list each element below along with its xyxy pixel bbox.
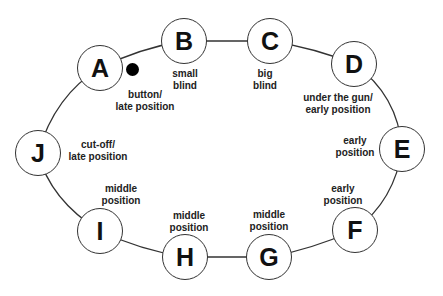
seat-i: I <box>77 208 123 254</box>
label-seat-g: middleposition <box>244 209 294 233</box>
dealer-button-icon <box>126 63 139 76</box>
label-seat-d: under the gun/early position <box>293 92 383 116</box>
label-seat-c: bigblind <box>240 68 290 92</box>
seat-f: F <box>332 207 378 253</box>
label-seat-b: smallblind <box>160 68 210 92</box>
seat-c: C <box>247 18 293 64</box>
seat-d: D <box>331 41 377 87</box>
poker-table-diagram: A B C D E F G H I J button/late position… <box>0 0 443 296</box>
label-seat-j: cut-off/late position <box>66 139 130 163</box>
label-seat-a: button/late position <box>100 89 190 113</box>
label-seat-e: earlyposition <box>330 135 380 159</box>
seat-h: H <box>162 234 208 280</box>
label-seat-i: middleposition <box>96 183 146 207</box>
seat-j: J <box>15 130 61 176</box>
seat-b: B <box>161 18 207 64</box>
seat-a: A <box>77 45 123 91</box>
label-seat-h: middleposition <box>164 210 214 234</box>
seat-g: G <box>246 234 292 280</box>
label-seat-f: earlyposition <box>318 183 368 207</box>
seat-e: E <box>379 126 425 172</box>
